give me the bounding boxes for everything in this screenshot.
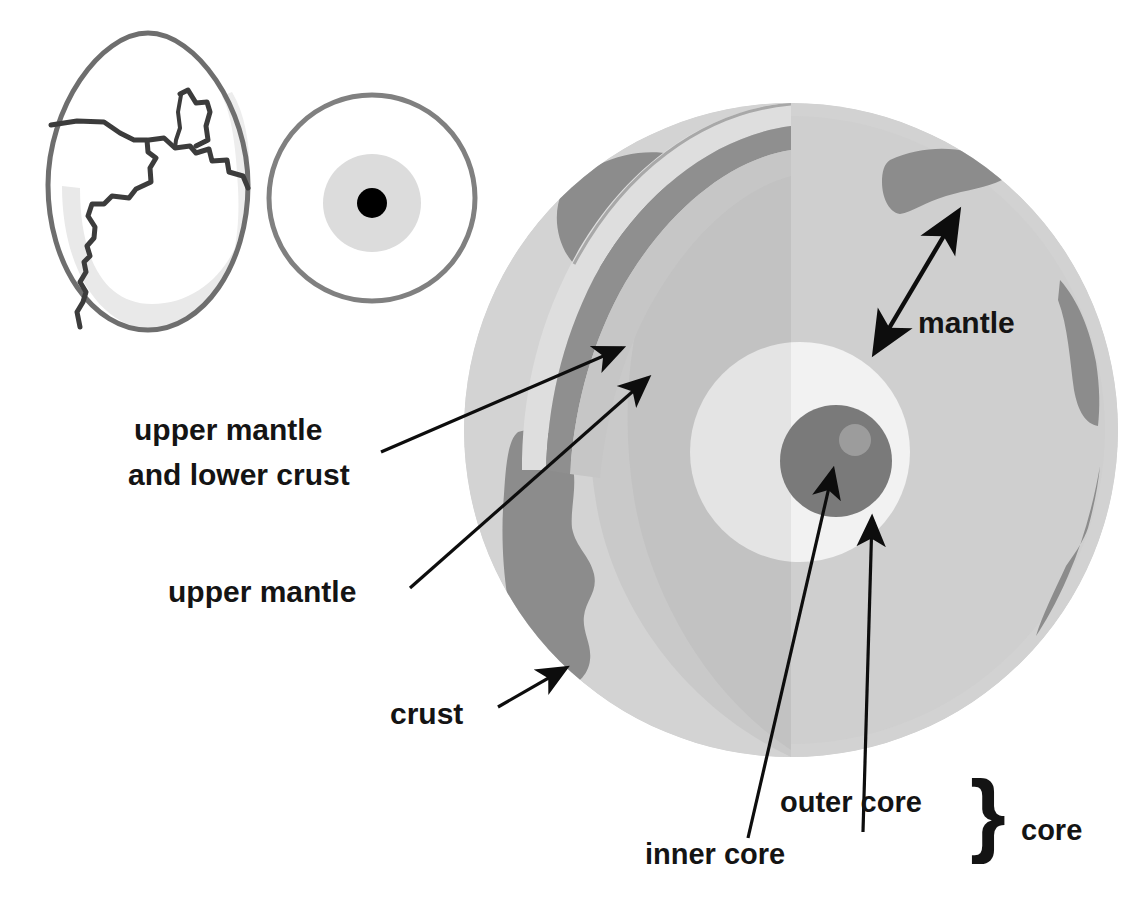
egg-cross-section-illustration: [269, 95, 475, 301]
label-mantle: mantle: [918, 306, 1015, 339]
label-upper-mantle: upper mantle: [168, 575, 356, 608]
core-brace-symbol: }: [970, 762, 1006, 864]
inner-core: [780, 405, 892, 517]
label-core: core: [1021, 814, 1082, 846]
cross-section-center-dot: [357, 188, 387, 218]
label-upper-mantle-lower-crust-line1: upper mantle: [134, 413, 322, 446]
label-inner-core: inner core: [645, 838, 785, 870]
inner-core-highlight: [839, 424, 871, 456]
label-outer-core: outer core: [780, 786, 922, 818]
label-upper-mantle-lower-crust-line2: and lower crust: [128, 458, 350, 491]
label-crust: crust: [390, 697, 463, 730]
earth-layers-diagram: upper mantle and lower crust upper mantl…: [0, 0, 1137, 911]
earth-inner-core: [780, 405, 892, 517]
